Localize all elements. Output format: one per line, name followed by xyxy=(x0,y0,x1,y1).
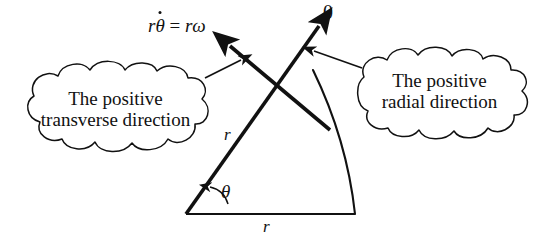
sector-arc xyxy=(313,70,355,214)
expression-theta-dot: θ xyxy=(155,16,164,35)
expression-equals: = xyxy=(170,15,181,36)
label-origin-zero: 0 xyxy=(323,2,333,22)
callout-transverse-line1: The positive xyxy=(18,88,213,109)
leader-line-transverse xyxy=(205,60,241,78)
expression-r: r xyxy=(148,15,155,36)
expression-r-omega: rω xyxy=(185,15,206,36)
callout-radial-line1: The positive xyxy=(352,70,527,91)
transverse-direction-arrow xyxy=(230,46,330,130)
theta-dot-mark xyxy=(159,11,162,14)
label-radius-baseline: r xyxy=(263,218,270,235)
label-angle-theta: θ xyxy=(221,182,230,201)
callout-radial-line2: radial direction xyxy=(352,91,527,112)
leader-line-radial xyxy=(314,51,362,68)
polar-coordinate-diagram: rθ = rω 0 r r θ The positive transverse … xyxy=(0,0,543,244)
callout-transverse-line2: transverse direction xyxy=(18,109,213,130)
callout-text-radial: The positive radial direction xyxy=(352,70,527,113)
label-radius-radial: r xyxy=(224,126,231,143)
callout-text-transverse: The positive transverse direction xyxy=(18,88,213,131)
label-transverse-expression: rθ = rω xyxy=(148,16,206,35)
